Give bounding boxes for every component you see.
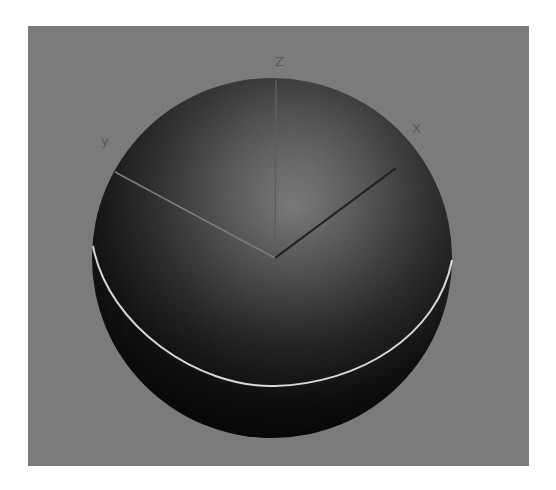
x-axis-label: X <box>412 122 421 135</box>
z-axis-line[interactable] <box>275 80 276 258</box>
viewport-scene[interactable] <box>28 26 529 466</box>
y-axis-label: y <box>101 134 109 147</box>
z-axis-label: Z <box>275 55 284 68</box>
3d-viewport[interactable]: Z y X <box>28 26 529 466</box>
